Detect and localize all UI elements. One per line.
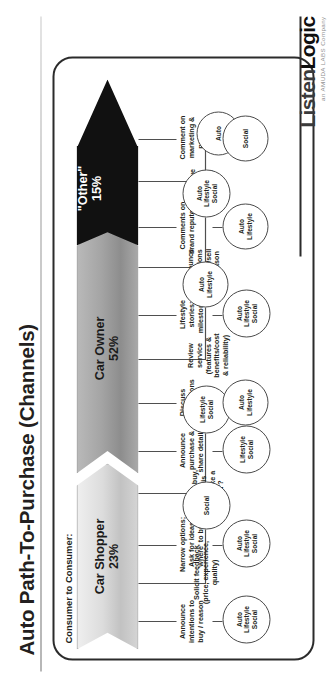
channel-circle: Auto Lifestyle: [222, 203, 268, 249]
channel-name: Social: [250, 609, 258, 628]
channel-name: Lifestyle: [242, 606, 250, 633]
channel-name: Lifestyle: [205, 271, 213, 298]
channel-circle: Social: [182, 481, 230, 529]
infographic-slide: Auto Path-To-Purchase (Channels) Consume…: [0, 0, 331, 679]
channel-name: Lifestyle: [202, 180, 210, 207]
channel-name: Auto: [235, 306, 243, 321]
stage-other-shape: [76, 79, 138, 245]
channel-name: Lifestyle: [245, 389, 253, 416]
channel-name: Auto: [197, 277, 205, 292]
channel-circle: Auto Lifestyle Social: [222, 519, 270, 567]
channel-name: Lifestyle: [242, 300, 250, 327]
channel-name: Auto: [235, 536, 243, 551]
channel-name: Lifestyle: [238, 436, 246, 463]
logo-word-listen: Listen: [295, 69, 318, 127]
stage-car-owner: Car Owner 52%: [76, 223, 138, 473]
path-to-purchase-arrow: Car Shopper 23% Car Owner 52% "Other" 15…: [76, 79, 138, 649]
logo-word-logic: Logic: [295, 16, 318, 69]
channel-name: Social: [202, 495, 210, 514]
channel-circle: Lifestyle Social: [222, 425, 270, 473]
channel-name: Auto: [237, 395, 245, 410]
channel-name: Social: [250, 533, 258, 552]
logo-tagline: an AMUDA LABS Company: [318, 16, 325, 127]
channel-name: Social: [250, 303, 258, 322]
section-label: Consumer to Consumer:: [62, 533, 73, 643]
channel-name: Auto: [235, 612, 243, 627]
channel-name: Social: [241, 128, 249, 147]
channel-name: Auto: [195, 186, 203, 201]
title-divider: [40, 16, 41, 671]
channel-circle: Auto Lifestyle Social: [222, 595, 270, 643]
channel-name: Lifestyle: [245, 213, 253, 240]
channel-circle: Auto Lifestyle: [222, 379, 268, 425]
rotated-slide-wrapper: Auto Path-To-Purchase (Channels) Consume…: [0, 0, 331, 679]
brand-logo: ListenLogic an AMUDA LABS Company: [296, 16, 325, 127]
channel-circle: Auto Lifestyle Social: [222, 289, 270, 337]
channel-circle: Auto Lifestyle: [182, 261, 228, 307]
stage-car-shopper-shape: [76, 463, 138, 649]
stage-car-shopper: Car Shopper 23%: [76, 463, 138, 649]
channel-name: Auto: [214, 126, 222, 141]
channel-circle: Auto Lifestyle Social: [182, 169, 230, 217]
channel-name: Social: [210, 183, 218, 202]
channel-name: Social: [206, 399, 214, 418]
channel-name: Auto: [237, 219, 245, 234]
channel-name: Lifestyle: [242, 530, 250, 557]
stage-other: "Other" 15%: [76, 79, 138, 245]
logo-wordmark: ListenLogic: [296, 16, 317, 127]
channel-name: Social: [246, 439, 254, 458]
channel-name: Lifestyle: [198, 396, 206, 423]
channel-circle: Social: [222, 115, 268, 161]
stage-car-owner-shape: [76, 223, 138, 473]
page-title: Auto Path-To-Purchase (Channels): [14, 324, 38, 656]
